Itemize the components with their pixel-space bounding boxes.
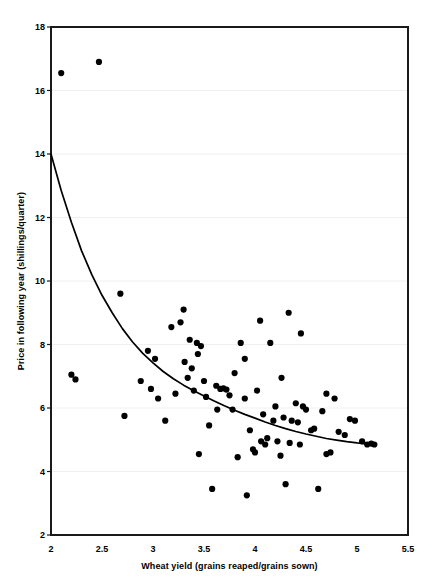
- data-point: [206, 422, 212, 428]
- scatter-points: [58, 59, 377, 499]
- data-point: [177, 319, 183, 325]
- x-tick-label: 5: [354, 544, 359, 554]
- data-point: [352, 418, 358, 424]
- data-point: [293, 400, 299, 406]
- y-tick-label: 8: [40, 340, 45, 350]
- data-point: [72, 376, 78, 382]
- data-point: [277, 453, 283, 459]
- y-tick-label: 14: [35, 149, 45, 159]
- data-point: [258, 438, 264, 444]
- data-point: [145, 348, 151, 354]
- data-point: [68, 372, 74, 378]
- data-point: [278, 375, 284, 381]
- data-point: [252, 449, 258, 455]
- y-axis-title: Price in following year (shillings/quart…: [16, 192, 26, 370]
- data-point: [286, 310, 292, 316]
- data-point: [235, 454, 241, 460]
- x-tick-label: 4.5: [300, 544, 313, 554]
- data-point: [244, 492, 250, 498]
- x-tick-label: 2: [48, 544, 53, 554]
- data-point: [272, 403, 278, 409]
- data-point: [223, 386, 229, 392]
- x-tick-label: 2.5: [96, 544, 109, 554]
- y-tick-label: 2: [40, 530, 45, 540]
- x-axis-ticks: 22.533.544.555.5: [48, 544, 414, 554]
- data-point: [280, 414, 286, 420]
- data-point: [209, 486, 215, 492]
- data-point: [242, 395, 248, 401]
- data-point: [196, 451, 202, 457]
- data-point: [264, 435, 270, 441]
- data-point: [287, 440, 293, 446]
- data-point: [203, 394, 209, 400]
- data-point: [232, 370, 238, 376]
- data-point: [148, 386, 154, 392]
- data-point: [58, 70, 64, 76]
- data-point: [289, 418, 295, 424]
- data-point: [191, 387, 197, 393]
- data-point: [298, 330, 304, 336]
- data-point: [238, 340, 244, 346]
- data-point: [168, 324, 174, 330]
- data-point: [152, 356, 158, 362]
- data-point: [303, 406, 309, 412]
- data-point: [226, 392, 232, 398]
- data-point: [155, 395, 161, 401]
- data-point: [257, 318, 263, 324]
- data-point: [117, 291, 123, 297]
- data-point: [267, 340, 273, 346]
- y-tick-label: 10: [35, 276, 45, 286]
- data-point: [327, 449, 333, 455]
- data-point: [185, 375, 191, 381]
- data-point: [195, 351, 201, 357]
- data-point: [181, 306, 187, 312]
- data-point: [319, 408, 325, 414]
- data-point: [214, 406, 220, 412]
- y-tick-label: 12: [35, 213, 45, 223]
- x-tick-label: 5.5: [402, 544, 415, 554]
- x-axis-title: Wheat yield (grains reaped/grains sown): [141, 561, 317, 571]
- data-point: [121, 413, 127, 419]
- data-point: [260, 411, 266, 417]
- y-tick-label: 6: [40, 403, 45, 413]
- data-point: [189, 365, 195, 371]
- x-tick-label: 4: [252, 544, 257, 554]
- data-point: [331, 395, 337, 401]
- data-point: [323, 391, 329, 397]
- y-tick-label: 4: [40, 467, 45, 477]
- data-point: [201, 378, 207, 384]
- data-point: [274, 438, 280, 444]
- data-point: [242, 356, 248, 362]
- x-tick-label: 3.5: [198, 544, 211, 554]
- y-axis-ticks: 24681012141618: [35, 22, 51, 540]
- data-point: [297, 441, 303, 447]
- data-point: [311, 426, 317, 432]
- y-tick-label: 18: [35, 22, 45, 32]
- scatter-chart: 2468101214161822.533.544.555.5Wheat yiel…: [0, 0, 437, 587]
- x-tick-label: 3: [150, 544, 155, 554]
- fit-curve: [51, 154, 374, 445]
- data-point: [342, 432, 348, 438]
- data-point: [138, 378, 144, 384]
- data-point: [247, 427, 253, 433]
- data-point: [162, 418, 168, 424]
- data-point: [182, 359, 188, 365]
- data-point: [295, 419, 301, 425]
- data-point: [229, 406, 235, 412]
- data-point: [96, 59, 102, 65]
- data-point: [336, 429, 342, 435]
- data-point: [172, 391, 178, 397]
- data-point: [283, 481, 289, 487]
- data-point: [254, 387, 260, 393]
- gridlines: [51, 91, 408, 472]
- data-point: [187, 337, 193, 343]
- data-point: [371, 441, 377, 447]
- data-point: [315, 486, 321, 492]
- plot-canvas: 2468101214161822.533.544.555.5Wheat yiel…: [0, 0, 437, 587]
- data-point: [270, 418, 276, 424]
- y-tick-label: 16: [35, 86, 45, 96]
- data-point: [198, 343, 204, 349]
